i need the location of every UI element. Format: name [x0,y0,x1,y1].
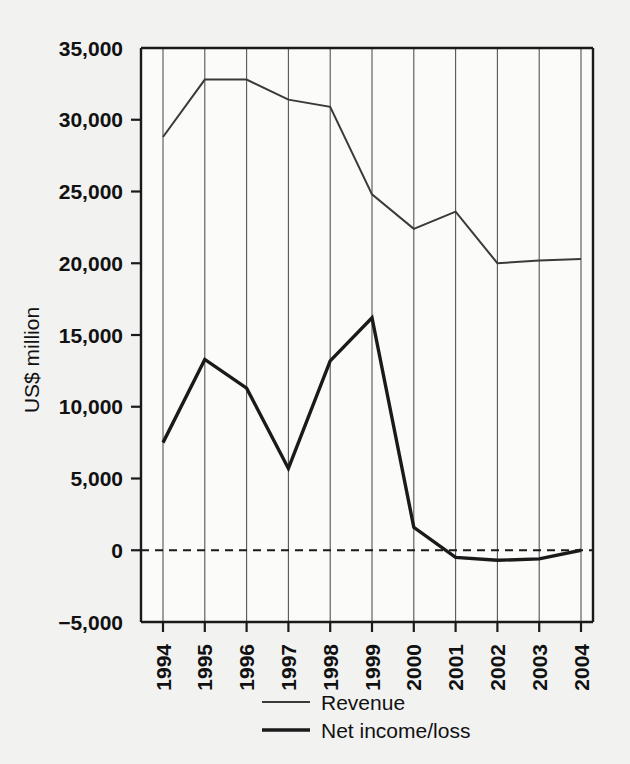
x-axis-ticks [163,622,581,632]
x-tick-label-1997: 1997 [277,644,300,691]
x-tick-label-2001: 2001 [444,644,467,691]
chart-figure: 35,00030,00025,00020,00015,00010,0005,00… [0,0,630,764]
y-tick-label-15000: 15,000 [59,324,123,347]
legend-label-2: Net income/loss [321,719,470,742]
y-tick-label-30000: 30,000 [59,108,123,131]
y-tick-label-25000: 25,000 [59,180,123,203]
x-tick-label-2004: 2004 [570,644,593,691]
y-tick-label-0: 0 [111,539,123,562]
y-tick-label-5000: 5,000 [70,467,123,490]
x-tick-label-1995: 1995 [193,644,216,691]
chart-legend: RevenueNet income/loss [262,691,470,742]
x-tick-label-2000: 2000 [402,644,425,691]
legend-label-1: Revenue [321,691,405,714]
x-tick-label-1999: 1999 [361,644,384,691]
y-tick-label-20000: 20,000 [59,252,123,275]
y-tick-label-10000: 10,000 [59,395,123,418]
line-chart: 35,00030,00025,00020,00015,00010,0005,00… [0,0,630,764]
y-tick-label--5000: −5,000 [58,611,123,634]
y-axis-title: US$ million [20,307,43,413]
y-tick-label-35000: 35,000 [59,37,123,60]
x-tick-label-2003: 2003 [528,644,551,691]
x-tick-label-1994: 1994 [152,644,175,691]
y-axis-ticks: 35,00030,00025,00020,00015,00010,0005,00… [58,37,141,634]
x-tick-label-1996: 1996 [235,644,258,691]
x-tick-label-1998: 1998 [319,644,342,691]
plot-area-background [141,48,593,622]
x-tick-label-2002: 2002 [486,644,509,691]
x-axis-tick-labels: 1994199519961997199819992000200120022003… [152,644,593,691]
